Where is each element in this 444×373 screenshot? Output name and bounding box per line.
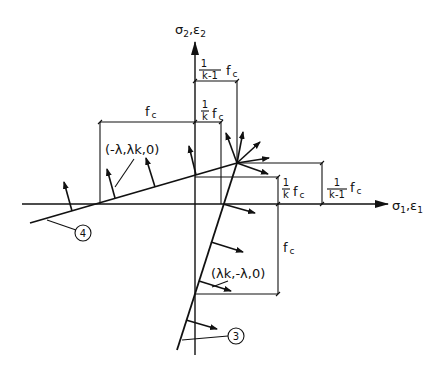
svg-text:3: 3 <box>233 331 239 342</box>
label-line3-normal-vector: (λk,-λ,0) <box>211 266 265 287</box>
svg-text:fc: fc <box>350 180 362 196</box>
svg-text:fc: fc <box>145 104 157 120</box>
marker-line-3: 3 <box>182 328 244 344</box>
label-line4-normal-vector: (-λ,λk,0) <box>105 142 159 187</box>
label-top-1-over-k-minus-1-fc: 1 k-1 fc <box>199 58 238 81</box>
svg-text:1: 1 <box>201 58 207 69</box>
label-right-1-over-k-fc: 1 k fc <box>282 177 305 200</box>
svg-text:(λk,-λ,0): (λk,-λ,0) <box>211 266 265 281</box>
svg-text:k: k <box>202 111 208 122</box>
label-mid-1-over-k-fc: 1 k fc <box>201 99 224 122</box>
line-3 <box>177 163 237 350</box>
label-left-fc: fc <box>145 104 157 120</box>
svg-text:fc: fc <box>212 106 224 122</box>
svg-text:fc: fc <box>293 184 305 200</box>
svg-text:1: 1 <box>334 177 340 188</box>
svg-text:fc: fc <box>226 63 238 79</box>
corner-normal-fan <box>226 132 269 174</box>
sigma1-axis-label: σ1,ε1 <box>392 198 423 215</box>
line-4 <box>30 163 237 223</box>
svg-text:k: k <box>283 189 289 200</box>
dimension-lines <box>98 79 324 296</box>
sigma2-axis-label: σ2,ε2 <box>175 22 206 39</box>
svg-text:k-1: k-1 <box>202 70 218 81</box>
svg-text:(-λ,λk,0): (-λ,λk,0) <box>105 142 159 157</box>
svg-text:4: 4 <box>80 228 86 239</box>
yield-surface-diagram: σ2,ε2 σ1,ε1 <box>0 0 444 373</box>
marker-line-4: 4 <box>47 220 91 241</box>
svg-text:k-1: k-1 <box>329 189 345 200</box>
label-lower-fc: fc <box>283 240 295 256</box>
label-right-1-over-k-minus-1-fc: 1 k-1 fc <box>327 177 362 200</box>
svg-text:1: 1 <box>202 99 208 110</box>
svg-text:fc: fc <box>283 240 295 256</box>
svg-text:1: 1 <box>283 177 289 188</box>
